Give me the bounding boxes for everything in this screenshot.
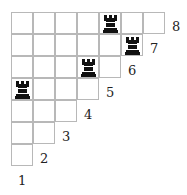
row-label: 4 xyxy=(84,108,92,121)
board-cell xyxy=(121,34,143,56)
row-label: 7 xyxy=(150,42,158,55)
board-cell xyxy=(11,144,33,166)
board-cell xyxy=(99,56,121,78)
board-cell xyxy=(11,122,33,144)
board-cell xyxy=(55,56,77,78)
rook-icon xyxy=(14,80,31,99)
row-label: 1 xyxy=(18,174,26,187)
board-cell xyxy=(143,12,165,34)
board-cell xyxy=(121,12,143,34)
board-cell xyxy=(33,34,55,56)
board-cell xyxy=(99,12,121,34)
rook-icon xyxy=(102,14,119,33)
row-label: 3 xyxy=(62,130,70,143)
board-cell xyxy=(77,34,99,56)
board-cell xyxy=(77,78,99,100)
row-label: 6 xyxy=(128,64,136,77)
board-cell xyxy=(55,34,77,56)
board-cell xyxy=(33,78,55,100)
rook-icon xyxy=(80,58,97,77)
board-cell xyxy=(33,12,55,34)
board-cell xyxy=(33,56,55,78)
rook-icon xyxy=(124,36,141,55)
board-cell xyxy=(77,56,99,78)
board-cell xyxy=(55,100,77,122)
board-cell xyxy=(11,78,33,100)
board-cell xyxy=(33,100,55,122)
row-label: 2 xyxy=(40,152,48,165)
board-cell xyxy=(11,56,33,78)
board-cell xyxy=(11,12,33,34)
board-cell xyxy=(55,12,77,34)
board-cell xyxy=(33,122,55,144)
board-cell xyxy=(11,34,33,56)
row-label: 8 xyxy=(172,20,180,33)
board-cell xyxy=(99,34,121,56)
board-cell xyxy=(11,100,33,122)
board-cell xyxy=(77,12,99,34)
row-label: 5 xyxy=(106,86,114,99)
board-cell xyxy=(55,78,77,100)
